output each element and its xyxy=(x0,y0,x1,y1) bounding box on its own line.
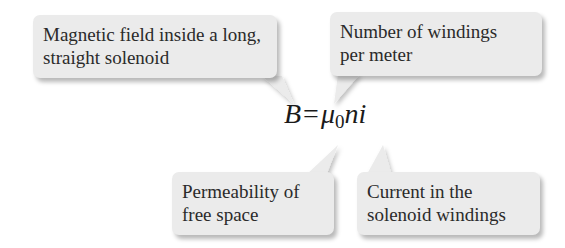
callout-windings-per-meter: Number of windings per meter xyxy=(330,12,542,76)
callout-text: solenoid windings xyxy=(367,203,530,226)
solenoid-field-equation: B=μ0ni xyxy=(284,98,366,133)
callout-text: straight solenoid xyxy=(43,46,267,69)
eq-operator: = xyxy=(301,98,321,129)
callout-text: Permeability of xyxy=(182,180,324,203)
eq-rest: ni xyxy=(344,98,366,129)
callout-magnetic-field: Magnetic field inside a long, straight s… xyxy=(33,15,277,78)
eq-lhs: B xyxy=(284,98,301,129)
callout-text: Magnetic field inside a long, xyxy=(43,23,267,46)
callout-text: Current in the xyxy=(367,180,530,203)
eq-mu: μ xyxy=(321,98,335,129)
callout-permeability: Permeability of free space xyxy=(172,172,334,235)
callout-current: Current in the solenoid windings xyxy=(357,172,540,235)
callout-text: Number of windings xyxy=(340,20,532,43)
callout-text: per meter xyxy=(340,43,532,66)
callout-text: free space xyxy=(182,203,324,226)
